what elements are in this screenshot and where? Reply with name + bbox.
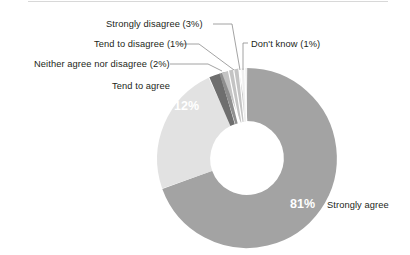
slice-tend-to-disagree[interactable]	[227, 98, 231, 99]
slice-tend-to-agree[interactable]	[184, 102, 220, 180]
slice-value-strongly-agree: 81%	[290, 197, 315, 211]
leader-line-neither	[170, 64, 222, 71]
slice-value-tend-to-agree: 12%	[174, 99, 199, 113]
callout-label-strongly-disagree: Strongly disagree (3%)	[106, 19, 203, 29]
callout-label-tend-to-disagree: Tend to disagree (1%)	[94, 39, 187, 49]
donut-graphic	[0, 0, 410, 255]
leader-line-strongly-disagree	[213, 24, 240, 70]
callout-label-neither-agree-nor-disagree: Neither agree nor disagree (2%)	[34, 59, 170, 69]
callout-label-strongly-agree: Strongly agree	[327, 200, 389, 210]
donut-chart: Strongly disagree (3%) Tend to disagree …	[0, 0, 410, 255]
callout-label-dont-know: Don't know (1%)	[251, 39, 320, 49]
leader-line-tend-to-disagree	[180, 44, 234, 70]
leader-line-dont-know	[243, 43, 248, 70]
slice-neither-agree-nor-disagree[interactable]	[220, 99, 228, 102]
callout-label-tend-to-agree: Tend to agree	[112, 81, 170, 91]
